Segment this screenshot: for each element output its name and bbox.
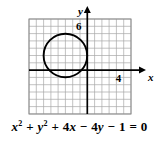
equation-term-4-coefficient: 4 <box>91 119 98 134</box>
equation-term-4-variable: y <box>98 119 104 134</box>
x-axis-arrow-icon <box>139 67 146 74</box>
equation-operator-1: + <box>26 119 35 134</box>
equation-operator-3: − <box>79 119 88 134</box>
equation-term-2-exponent: 2 <box>43 119 47 128</box>
coordinate-plane-graph: 6 y 4 x <box>0 0 159 118</box>
x-axis-label: x <box>147 71 154 83</box>
equation-term-3-variable: x <box>69 119 76 134</box>
equation-equals-sign: = <box>129 119 138 134</box>
equation-operator-4: − <box>107 119 116 134</box>
equation-right-hand-side: 0 <box>141 119 148 134</box>
y-axis-tick-label: 6 <box>76 20 82 32</box>
graph-figure: 6 y 4 x <box>0 0 159 118</box>
equation-constant: 1 <box>119 119 126 134</box>
equation-term-1-exponent: 2 <box>18 119 22 128</box>
y-axis-label: y <box>76 5 83 17</box>
equation-operator-2: + <box>51 119 60 134</box>
y-axis-arrow-icon <box>84 6 91 13</box>
equation-caption: x2 + y2 + 4x − 4y − 1 = 0 <box>0 119 159 135</box>
x-axis-tick-label: 4 <box>116 72 122 84</box>
